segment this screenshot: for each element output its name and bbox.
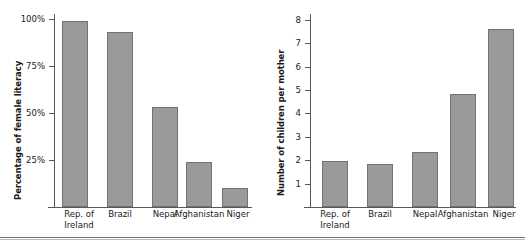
bar-left-afghanistan[interactable] (186, 162, 212, 207)
y-axis-label-left: Percentage of female literacy (13, 61, 23, 200)
y-tick-label-right-3: 3 (296, 132, 301, 142)
bar-left-ireland[interactable] (62, 21, 88, 207)
bar-left-nepal[interactable] (152, 107, 178, 207)
bars-left (54, 14, 252, 207)
bar-right-afghanistan[interactable] (450, 94, 476, 208)
footer-rule-shadow (0, 239, 525, 240)
y-tick-label-right-8: 8 (296, 15, 301, 25)
x-axis-labels-left: Rep. of Ireland Brazil Nepal Afghanistan… (54, 209, 252, 239)
bar-left-brazil[interactable] (107, 32, 133, 207)
y-tick-label-left-75: 75% (26, 61, 45, 71)
y-tick-label-left-50: 50% (26, 108, 45, 118)
plot-area-right: 8 7 6 5 4 3 2 1 (310, 14, 516, 208)
y-tick-label-right-1: 1 (296, 179, 301, 189)
x-axis-line-left (48, 207, 252, 208)
bar-right-brazil[interactable] (367, 164, 393, 207)
figure: Percentage of female literacy 100% 75% 5… (0, 0, 525, 245)
x-label-left-afghanistan: Afghanistan (172, 209, 226, 220)
y-tick-label-right-7: 7 (296, 38, 301, 48)
y-axis-label-right: Number of children per mother (276, 50, 286, 196)
bar-right-nepal[interactable] (412, 152, 438, 207)
y-tick-label-left-25: 25% (26, 155, 45, 165)
x-label-left-niger: Niger (220, 209, 256, 220)
bars-right (310, 14, 516, 207)
y-tick-label-right-2: 2 (296, 155, 301, 165)
plot-area-left: 100% 75% 50% 25% (54, 14, 252, 208)
bar-right-niger[interactable] (488, 29, 514, 207)
y-tick-label-left-100: 100% (21, 14, 45, 24)
chart-children-per-mother: Number of children per mother 8 7 6 5 4 … (263, 0, 525, 238)
y-tick-label-right-5: 5 (296, 85, 301, 95)
x-axis-line-right (304, 207, 516, 208)
x-label-right-niger: Niger (486, 209, 522, 220)
bar-right-ireland[interactable] (322, 161, 348, 207)
bar-left-niger[interactable] (222, 188, 248, 207)
y-tick-label-right-6: 6 (296, 62, 301, 72)
x-axis-labels-right: Rep. of Ireland Brazil Nepal Afghanistan… (310, 209, 516, 239)
y-tick-label-right-4: 4 (296, 108, 301, 118)
chart-female-literacy: Percentage of female literacy 100% 75% 5… (0, 0, 262, 238)
x-label-left-brazil: Brazil (96, 209, 144, 220)
x-label-right-afghanistan: Afghanistan (436, 209, 490, 220)
x-label-right-brazil: Brazil (356, 209, 404, 220)
footer-rule (0, 237, 525, 238)
